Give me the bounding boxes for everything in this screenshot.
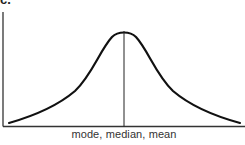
normal-distribution-diagram: c. mode, median, mean bbox=[0, 0, 245, 145]
x-axis-label: mode, median, mean bbox=[0, 128, 245, 140]
distribution-plot bbox=[0, 0, 245, 145]
